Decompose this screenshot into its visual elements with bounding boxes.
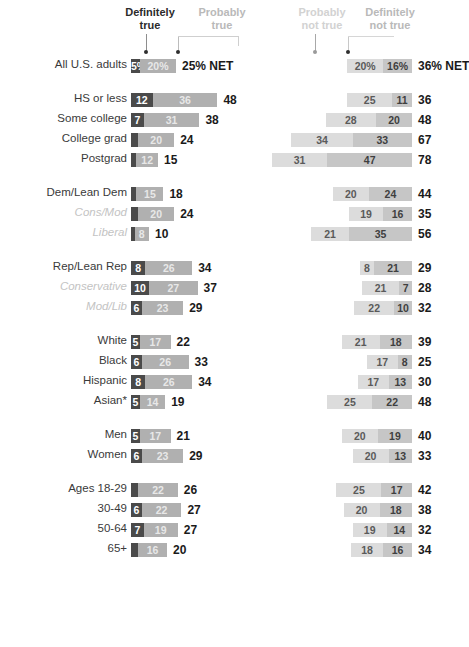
net-true-value: 27 [184,523,197,537]
bar-segment-definitely-not-true: 10 [394,301,412,315]
bar-right-not-true: 2820 [326,110,412,130]
row-label: Ages 18-29 [0,482,127,494]
table-row: Asian*51419252248 [0,392,465,412]
bar-segment-definitely-true: 8 [131,261,145,275]
bar-right-not-true: 1914 [353,520,412,540]
bar-left-true: 517 [131,332,171,352]
bar-segment-probably-not-true: 20 [353,449,389,463]
bar-segment-probably-true: 23 [142,449,183,463]
row-label: White [0,334,127,346]
row-label: Black [0,354,127,366]
net-true-value: 19 [171,395,184,409]
bar-segment-probably-not-true: 20 [344,503,380,517]
net-true-value: 15 [164,153,177,167]
bar-segment-probably-not-true: 21 [311,227,349,241]
bar-left-true: 623 [131,298,183,318]
net-true-value: 37 [204,281,217,295]
bar-segment-definitely-true: 5% [131,59,140,73]
leader-line-definitely-not-true-horizontal [348,36,394,37]
net-true-value: 24 [180,207,193,221]
bar-segment-probably-not-true: 25 [327,395,372,409]
bar-segment-definitely-not-true: 21 [374,261,412,275]
bar-right-not-true: 2024 [333,184,412,204]
net-not-true-value: 48 [418,113,431,127]
bar-left-true: 514 [131,392,165,412]
row-label: Postgrad [0,152,127,164]
bar-segment-definitely-true [131,207,138,221]
net-not-true-value: 36 [418,93,431,107]
net-not-true-value: 30 [418,375,431,389]
net-true-value: 29 [189,301,202,315]
row-label: 50-64 [0,522,127,534]
bar-segment-probably-true: 20 [138,207,174,221]
bar-segment-definitely-not-true: 22 [372,395,412,409]
bar-right-not-true: 2210 [354,298,412,318]
row-label: Conservative [0,280,127,292]
bar-left-true: 16 [131,540,167,560]
bar-segment-probably-not-true: 18 [351,543,383,557]
bar-segment-probably-not-true: 28 [326,113,376,127]
net-not-true-value: 32 [418,301,431,315]
net-not-true-value: 34 [418,543,431,557]
bar-segment-probably-not-true: 25 [347,93,392,107]
leader-dot-definitely-true [144,50,148,54]
bar-right-not-true: 2517 [336,480,412,500]
bar-segment-probably-not-true: 21 [342,335,380,349]
row-label: Men [0,428,127,440]
net-true-value: 20 [173,543,186,557]
row-label: HS or less [0,92,127,104]
row-label: Rep/Lean Rep [0,260,127,272]
bar-segment-probably-not-true: 19 [353,523,387,537]
bar-segment-probably-true: 16 [138,543,167,557]
net-true-value: 24 [180,133,193,147]
legend-label-probably-not-true: Probably not true [288,6,356,31]
bar-segment-probably-true: 26 [145,375,192,389]
bar-left-true: 5%20% [131,56,176,76]
bar-left-true: 15 [131,184,163,204]
bar-segment-definitely-not-true: 20 [376,113,412,127]
bar-left-true: 626 [131,352,189,372]
bar-segment-definitely-true [131,133,138,147]
bar-segment-probably-true: 20 [138,133,174,147]
net-true-value: 48 [223,93,236,107]
bar-segment-definitely-not-true: 18 [380,503,412,517]
bar-left-true: 517 [131,426,171,446]
chart-legend-header: Definitely true Probably true Probably n… [0,0,465,56]
net-true-value: 21 [177,429,190,443]
bar-segment-definitely-true [131,543,138,557]
bar-segment-definitely-not-true: 14 [387,523,412,537]
bar-segment-probably-not-true: 20 [342,429,378,443]
bar-segment-probably-true: 15 [136,187,163,201]
bar-right-not-true: 2118 [342,332,412,352]
leader-line-probably-true-horizontal [178,36,238,37]
leader-line-probably-true-end [238,36,239,46]
bar-right-not-true: 178 [367,352,412,372]
bar-right-not-true: 2135 [311,224,412,244]
bar-segment-definitely-true: 12 [131,93,153,107]
bar-segment-probably-true: 17 [140,335,171,349]
table-row: Rep/Lean Rep8263482129 [0,258,465,278]
bar-left-true: 22 [131,480,178,500]
legend-label-definitely-true: Definitely true [112,6,188,31]
bar-segment-probably-not-true: 22 [354,301,394,315]
net-not-true-value: 42 [418,483,431,497]
bar-segment-definitely-not-true: 13 [389,449,412,463]
net-not-true-value: 40 [418,429,431,443]
net-true-value: 38 [205,113,218,127]
bar-segment-probably-true: 19 [144,523,178,537]
table-row: 50-6471927191432 [0,520,465,540]
bar-segment-definitely-not-true: 13 [389,375,412,389]
leader-dot-probably-not-true [313,50,317,54]
table-row: Some college73138282048 [0,110,465,130]
bar-left-true: 20 [131,204,174,224]
bar-segment-probably-true: 22 [138,483,178,497]
bar-segment-probably-true: 14 [140,395,165,409]
bar-right-not-true: 2511 [347,90,412,110]
bar-segment-definitely-not-true: 16% [383,59,412,73]
net-not-true-value: 28 [418,281,431,295]
row-label: Liberal [0,226,127,238]
bar-segment-definitely-not-true: 7 [399,281,412,295]
table-row: Black6263317825 [0,352,465,372]
table-row: HS or less123648251136 [0,90,465,110]
row-label: Cons/Mod [0,206,127,218]
